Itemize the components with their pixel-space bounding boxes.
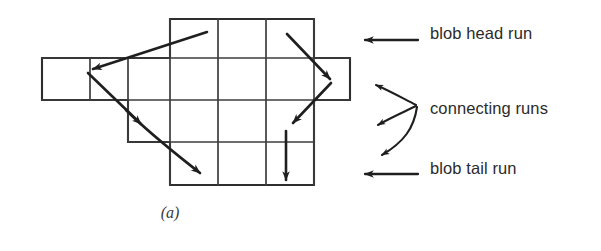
blob-traversal-arrows [88,32,331,180]
legend-label-blob-tail-run: blob tail run [430,159,517,178]
blob-outline [42,19,350,185]
legend-marker-connecting-runs [376,85,417,155]
legend-label-connecting-runs: connecting runs [430,99,548,118]
blob-grid [42,19,350,185]
connecting-prong-middle-icon [378,106,416,125]
connecting-arrow-down [293,83,331,123]
blob-run-figure: blob head run connecting runs blob tail … [0,0,601,251]
connecting-arrow-right [287,34,330,79]
head-run-arrow [93,32,207,69]
connecting-prong-top-icon [376,85,416,105]
legend-label-blob-head-run: blob head run [430,24,532,43]
figure-caption: (a) [0,204,340,222]
